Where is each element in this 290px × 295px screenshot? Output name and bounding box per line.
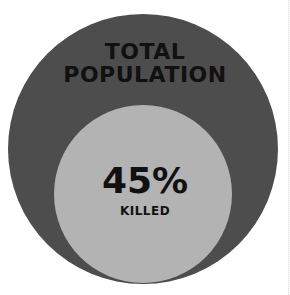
killed-label: KILLED: [0, 203, 290, 219]
outer-label-line2: POPULATION: [0, 63, 290, 87]
killed-percentage: 45%: [0, 161, 290, 201]
outer-label-line1: TOTAL: [0, 40, 290, 64]
